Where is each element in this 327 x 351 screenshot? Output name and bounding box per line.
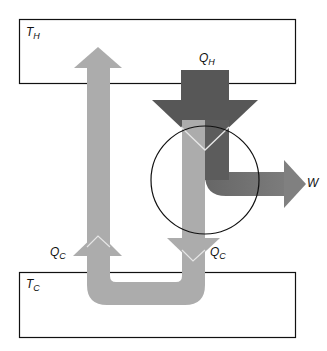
work-out-label: W [307,176,320,190]
heat-return-arrowhead [73,232,122,256]
work-out-arrowhead [284,160,306,208]
heat-out-label: QC [210,245,226,261]
heat-engine-diagram: TH TC QH W QC QC [0,0,327,351]
heat-return-label: QC [50,245,66,261]
heat-in-arrow [152,70,286,242]
hot-reservoir [20,20,296,84]
